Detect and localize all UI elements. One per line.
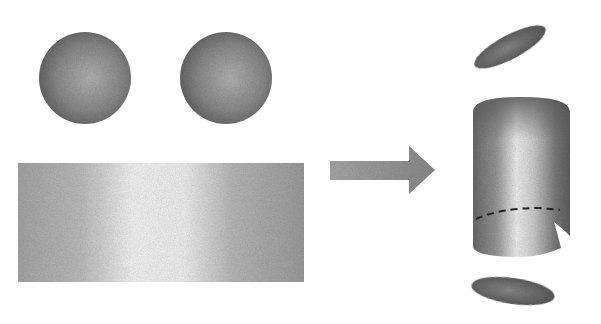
arrow-right-icon: [330, 146, 435, 194]
cylinder-group: [469, 18, 570, 310]
cylinder-top-shade: [473, 97, 570, 140]
top-lid-ellipse: [469, 18, 551, 77]
cylinder-net-diagram: [0, 0, 601, 324]
net-group: [18, 32, 304, 282]
bottom-base-circle: [180, 32, 272, 124]
bottom-lid-ellipse: [470, 272, 557, 309]
top-base-circle: [39, 32, 131, 124]
lateral-surface-rectangle: [18, 163, 304, 282]
